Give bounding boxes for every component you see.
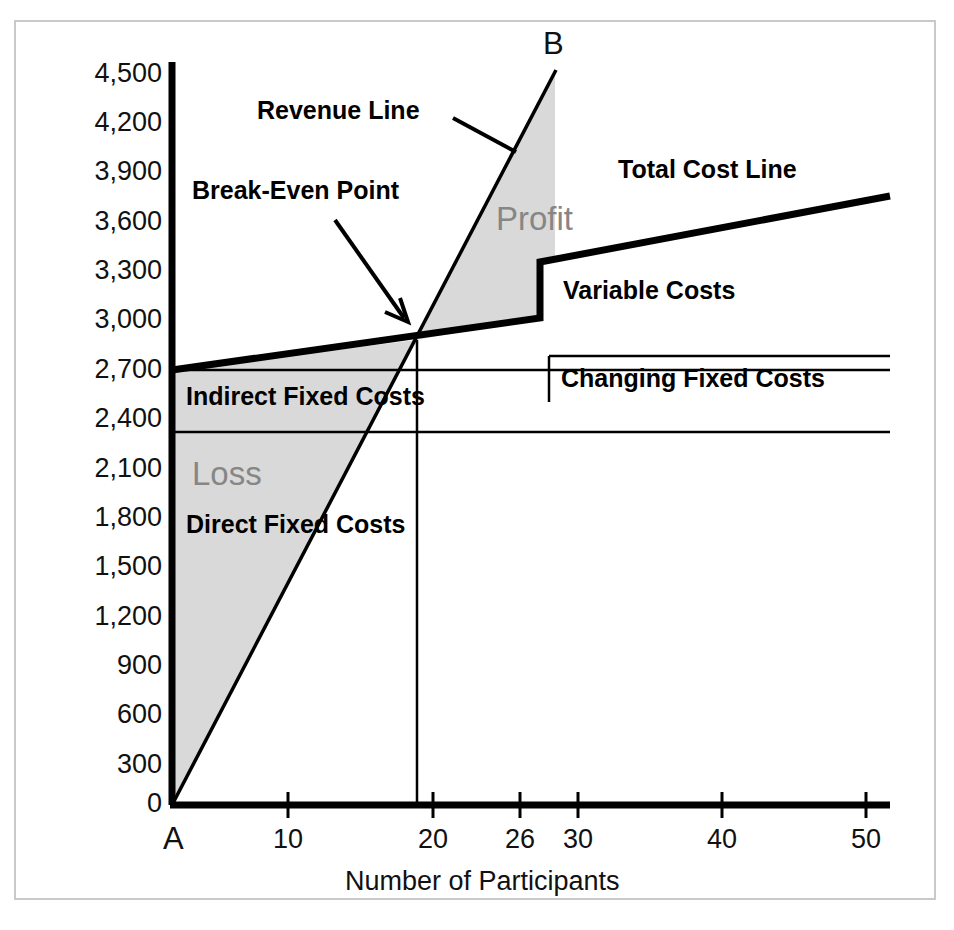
- x-axis-title: Number of Participants: [345, 868, 620, 895]
- variable-costs-label: Variable Costs: [563, 278, 735, 303]
- y-tick-label: 3,000: [58, 306, 162, 333]
- y-tick-label: 300: [58, 751, 162, 778]
- y-tick-label: 1,200: [58, 603, 162, 630]
- break-even-point-label: Break-Even Point: [192, 178, 399, 203]
- break-even-chart-figure: 4,500 4,200 3,900 3,600 3,300 3,000 2,70…: [0, 0, 954, 930]
- revenue-line-leader: [453, 118, 516, 152]
- y-tick-label: 0: [58, 790, 162, 817]
- total-cost-line-label: Total Cost Line: [618, 157, 797, 182]
- x-tick-label: 50: [836, 826, 896, 853]
- break-even-arrow-shaft: [335, 220, 404, 318]
- y-tick-label: 3,600: [58, 208, 162, 235]
- y-tick-label: 1,500: [58, 553, 162, 580]
- x-tick-label: 20: [403, 826, 463, 853]
- y-tick-label: 2,100: [58, 455, 162, 482]
- y-tick-label: 600: [58, 701, 162, 728]
- profit-region-label: Profit: [496, 202, 573, 235]
- revenue-line-label: Revenue Line: [257, 98, 420, 123]
- y-tick-label: 1,800: [58, 504, 162, 531]
- revenue-endpoint-marker-b: B: [543, 28, 564, 59]
- y-tick-label: 2,400: [58, 405, 162, 432]
- y-tick-label: 3,300: [58, 257, 162, 284]
- y-tick-label: 2,700: [58, 356, 162, 383]
- changing-fixed-costs-label: Changing Fixed Costs: [561, 366, 825, 391]
- origin-marker-a: A: [163, 823, 184, 854]
- direct-fixed-costs-label: Direct Fixed Costs: [186, 512, 406, 537]
- loss-region-label: Loss: [192, 457, 262, 490]
- x-tick-label: 30: [548, 826, 608, 853]
- x-tick-label: 40: [692, 826, 752, 853]
- y-tick-label: 4,200: [58, 109, 162, 136]
- x-tick-label: 10: [258, 826, 318, 853]
- y-tick-label: 3,900: [58, 158, 162, 185]
- y-tick-label: 900: [58, 652, 162, 679]
- y-tick-label: 4,500: [58, 60, 162, 87]
- x-tick-label: 26: [490, 826, 550, 853]
- indirect-fixed-costs-label: Indirect Fixed Costs: [186, 384, 425, 409]
